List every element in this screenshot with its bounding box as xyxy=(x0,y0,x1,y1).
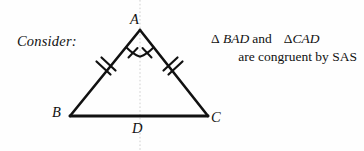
triangle-name-bad: BAD xyxy=(223,31,249,46)
congruence-statement: Δ BADandΔCAD are congruent by SAS xyxy=(211,30,361,66)
vertex-label-a: A xyxy=(130,11,139,28)
congruence-statement-line-2: are congruent by SAS xyxy=(211,48,361,66)
triangle-name-cad: CAD xyxy=(293,31,320,46)
vertex-label-d: D xyxy=(132,120,142,137)
conjunction-and: and xyxy=(249,31,275,46)
angle-mark-bad xyxy=(127,48,140,58)
congruence-statement-line-1: Δ BADandΔCAD xyxy=(211,30,361,48)
delta-symbol-2: Δ xyxy=(284,31,293,46)
delta-symbol-1: Δ xyxy=(211,31,220,46)
geometry-figure-page: Consider: A B C D Δ BADandΔCAD are congr… xyxy=(0,0,364,151)
segment-ab xyxy=(70,30,140,116)
segment-ac xyxy=(140,30,208,116)
vertex-label-c: C xyxy=(211,109,221,126)
angle-mark-cad xyxy=(140,48,153,58)
triangle-diagram xyxy=(0,0,364,151)
vertex-label-b: B xyxy=(52,104,61,121)
